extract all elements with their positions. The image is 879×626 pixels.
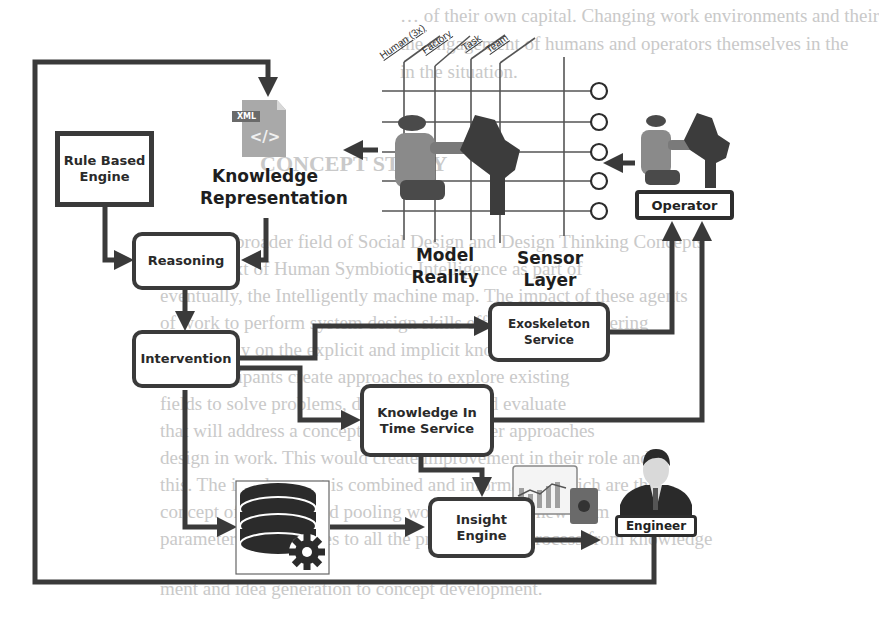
insight-engine-box[interactable]: Insight Engine (428, 497, 535, 558)
exoskeleton-service-label: Exoskeleton Service (508, 316, 590, 348)
model-reality-line2: Reality (405, 266, 485, 288)
engineer-label: Engineer (626, 519, 686, 533)
knowledge-representation-label: Knowledge Representation (200, 165, 330, 209)
rule-based-engine-label: Rule Based Engine (64, 153, 146, 185)
knowledge-in-time-service-box[interactable]: Knowledge In Time Service (360, 384, 494, 457)
code-glyph-icon: </> (246, 128, 284, 146)
intervention-box[interactable]: Intervention (132, 330, 240, 388)
operator-figure (641, 113, 730, 188)
xml-badge: XML (233, 112, 260, 122)
operator-box[interactable]: Operator (635, 190, 734, 220)
sensor-layer-line2: Layer (510, 269, 590, 291)
model-reality-figure (395, 115, 520, 215)
sensor-layer-line1: Sensor (510, 247, 590, 269)
exoskeleton-service-box[interactable]: Exoskeleton Service (488, 302, 610, 362)
operator-label: Operator (652, 198, 718, 213)
intervention-label: Intervention (141, 351, 232, 367)
reasoning-box[interactable]: Reasoning (132, 232, 240, 290)
reasoning-label: Reasoning (148, 253, 225, 269)
rule-based-engine-box[interactable]: Rule Based Engine (55, 131, 154, 207)
engineer-box[interactable]: Engineer (615, 515, 697, 537)
model-reality-label: Model Reality (405, 244, 485, 288)
insight-engine-label: Insight Engine (456, 512, 507, 544)
sensor-layer-label: Sensor Layer (510, 247, 590, 291)
knowledge-in-time-service-label[interactable]: Knowledge In Time Service (377, 405, 477, 437)
knowledge-representation-line1: Knowledge (200, 165, 330, 187)
sensor-nodes (591, 83, 607, 219)
database-gear-icon (236, 481, 329, 574)
knowledge-representation-line2: Representation (200, 187, 330, 209)
model-reality-line1: Model (405, 244, 485, 266)
